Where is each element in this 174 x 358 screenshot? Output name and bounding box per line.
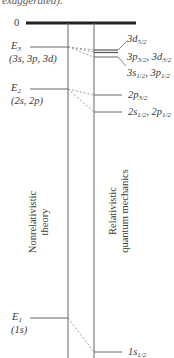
e1-label: E1 <box>12 311 22 322</box>
relativistic-title-line2: quantum mechanics <box>119 161 131 261</box>
level-3s12-3p12-label: 3s1/2, 3p1/2 <box>127 67 170 78</box>
nonrelativistic-title-line2: theory <box>39 174 51 270</box>
e3-shift-dash-2 <box>68 47 94 52</box>
zero-energy-label: 0 <box>14 17 19 28</box>
e1-shift-dash <box>68 318 94 352</box>
nonrelativistic-title-line1: Nonrelativistic <box>27 174 39 270</box>
level-1s12-label: 1s1/2 <box>128 346 146 357</box>
leader-3s12 <box>118 57 126 66</box>
e3-states: (3s, 3p, 3d) <box>9 53 57 64</box>
e1-states: (1s) <box>11 324 27 335</box>
level-2s12-2p12-label: 2s1/2, 2p1/2 <box>128 106 171 117</box>
level-2p32-label: 2p3/2 <box>128 89 147 100</box>
level-3p32-3d32-label: 3p3/2, 3d3/2 <box>127 51 171 62</box>
leader-3d52 <box>118 42 126 50</box>
nonrelativistic-title: Nonrelativistic theory <box>27 174 53 270</box>
relativistic-title: Relativistic quantum mechanics <box>107 161 133 261</box>
relativistic-title-line1: Relativistic <box>107 161 119 261</box>
e2-label: E2 <box>11 82 21 93</box>
level-3d52-label: 3d5/2 <box>127 33 146 44</box>
e2-states: (2s, 2p) <box>11 95 43 106</box>
e3-label: E3 <box>11 40 21 51</box>
e2-shift-dash-2 <box>68 89 94 112</box>
